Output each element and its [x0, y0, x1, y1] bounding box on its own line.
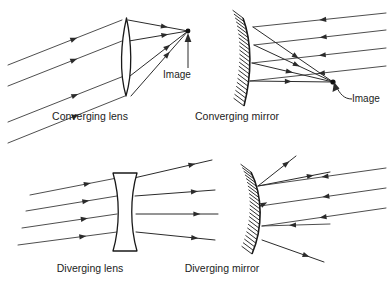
- hatch-line: [248, 224, 258, 232]
- hatch-line: [239, 46, 249, 54]
- refracted-ray-arrow: [161, 33, 168, 38]
- refracted-ray: [129, 31, 188, 41]
- optics-figure: Image Converging lens Image Converging m…: [0, 0, 390, 288]
- hatch-line: [237, 82, 247, 90]
- converging-lens-outgoing-rays: [128, 20, 188, 96]
- diverging-mirror-caption: Diverging mirror: [185, 262, 260, 274]
- hatch-line: [250, 205, 260, 213]
- refracted-ray-arrow: [193, 211, 200, 216]
- biconcave-lens-shape: [113, 173, 137, 251]
- refracted-ray-arrow: [161, 23, 168, 28]
- hatch-line: [235, 90, 245, 98]
- incident-ray: [22, 214, 117, 228]
- hatch-line: [249, 217, 259, 225]
- refracted-ray: [134, 160, 212, 178]
- hatch-line: [239, 62, 249, 70]
- hatch-line: [238, 78, 248, 86]
- refracted-ray: [128, 20, 188, 31]
- converging-lens-caption: Converging lens: [52, 110, 128, 122]
- hatch-line: [247, 228, 257, 236]
- incident-ray: [18, 232, 117, 245]
- panel-diverging-mirror: Diverging mirror: [185, 156, 386, 274]
- optics-diagram-canvas: Image Converging lens Image Converging m…: [0, 0, 390, 288]
- incident-ray: [8, 41, 122, 86]
- incident-ray-arrow: [319, 52, 326, 57]
- reflected-ray-arrow: [292, 61, 299, 66]
- panel-diverging-lens: Diverging lens: [18, 160, 218, 274]
- hatch-line: [238, 74, 248, 82]
- hatch-line: [250, 201, 260, 209]
- hatch-line: [249, 220, 259, 228]
- hatch-line: [242, 246, 252, 254]
- converging-mirror-incoming-rays: [250, 13, 386, 81]
- converging-mirror-caption: Converging mirror: [195, 110, 280, 122]
- hatch-line: [246, 232, 256, 240]
- hatch-line: [239, 50, 249, 58]
- incident-ray-arrow: [319, 17, 326, 22]
- incident-ray-arrow: [81, 217, 88, 222]
- incident-ray: [26, 196, 117, 211]
- hatch-line: [239, 58, 249, 66]
- hatch-line: [235, 94, 245, 102]
- incident-ray-arrow: [70, 38, 77, 43]
- incident-ray-arrow: [289, 222, 296, 227]
- incident-ray: [30, 178, 117, 195]
- hatch-line: [239, 70, 249, 78]
- converging-mirror-image-label: Image: [352, 93, 380, 104]
- biconvex-lens-shape: [122, 18, 131, 96]
- reflected-ray-arrow: [292, 52, 299, 58]
- hatch-line: [239, 66, 249, 74]
- hatch-line: [236, 86, 246, 94]
- reflected-ray-arrow: [285, 79, 292, 84]
- hatch-line: [239, 54, 249, 62]
- converging-lens-incoming-rays: [8, 20, 125, 143]
- hatch-line: [245, 235, 255, 243]
- incident-ray-arrow: [82, 199, 89, 204]
- incident-ray-arrow: [321, 174, 328, 179]
- reflected-ray: [262, 240, 324, 262]
- panel-converging-mirror: Image Converging mirror: [195, 10, 386, 122]
- diverging-mirror-outgoing-rays: [258, 156, 330, 262]
- panel-converging-lens: Image Converging lens: [8, 18, 191, 143]
- hatch-line: [244, 239, 254, 247]
- incident-ray-arrow: [79, 234, 86, 239]
- diverging-mirror-incoming-rays: [258, 168, 386, 228]
- converging-lens-image-point: [186, 29, 191, 34]
- diverging-lens-outgoing-rays: [134, 160, 218, 240]
- incident-ray-arrow: [320, 214, 327, 219]
- hatch-line: [249, 197, 259, 205]
- reflected-ray: [258, 172, 330, 186]
- refracted-ray: [136, 232, 215, 240]
- hatch-line: [243, 243, 253, 251]
- hatch-line: [239, 42, 249, 50]
- incident-ray-arrow: [83, 182, 90, 187]
- refracted-ray: [131, 31, 188, 96]
- reflected-ray-arrow: [282, 161, 289, 167]
- incident-ray-arrow: [322, 194, 329, 199]
- hatch-line: [250, 209, 260, 217]
- refracted-ray-arrow: [163, 45, 170, 51]
- reflected-ray-arrow: [302, 252, 309, 257]
- hatch-line: [234, 98, 244, 106]
- incident-ray-arrow: [71, 94, 78, 99]
- converging-lens-image-label: Image: [163, 69, 191, 80]
- refracted-ray-arrow: [191, 235, 198, 240]
- incident-ray: [8, 20, 122, 65]
- incident-ray-arrow: [320, 34, 327, 39]
- diverging-lens-caption: Diverging lens: [57, 262, 124, 274]
- hatch-line: [249, 213, 259, 221]
- diverging-lens-incoming-rays: [18, 178, 117, 245]
- refracted-ray: [135, 190, 215, 196]
- incident-ray-arrow: [70, 59, 77, 64]
